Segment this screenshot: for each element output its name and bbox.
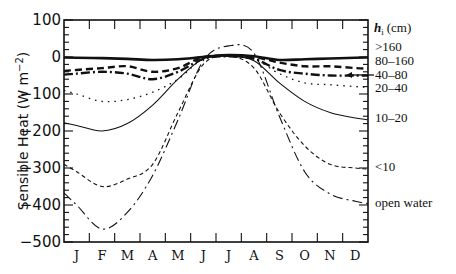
legend-label: open water [375,195,433,210]
month-label: A [147,248,158,263]
y-tick-label: 100 [32,11,61,29]
y-tick-label: −300 [20,159,61,177]
legend: hi(cm) >16080–16040–8020–4010–20<10open … [346,20,433,210]
y-tick-label: 0 [51,48,61,66]
y-tick-labels: 1000−100−200−300−400−500 [20,11,61,251]
month-label: M [121,248,134,263]
legend-label: >160 [375,39,402,54]
month-label: A [248,248,259,263]
month-label: O [299,248,310,263]
legend-title: hi(cm) [374,20,411,37]
month-label: J [72,248,79,263]
series-line [64,45,368,230]
plot-frame [64,20,368,242]
legend-label: 80–160 [375,53,414,68]
month-label: N [324,248,335,263]
axis-ticks [64,20,368,242]
legend-label: <10 [375,159,395,174]
y-tick-label: −500 [20,233,61,251]
month-label: S [275,248,284,263]
month-label: D [350,248,360,263]
sensible-heat-chart: Sensible Heat (W m−2) 1000−100−200−300−4… [0,0,456,274]
y-tick-label: −200 [20,122,61,140]
legend-label: 20–40 [375,80,408,95]
y-tick-label: −400 [20,196,61,214]
month-label: F [97,248,106,263]
month-label: J [199,248,206,263]
month-label: J [224,248,231,263]
month-label: M [171,248,184,263]
y-tick-label: −100 [20,85,61,103]
series-line [64,56,368,187]
legend-label: 10–20 [375,110,408,125]
series-line [64,56,368,102]
data-series [64,45,368,230]
x-tick-labels: JFMAMJJASOND [72,248,360,263]
